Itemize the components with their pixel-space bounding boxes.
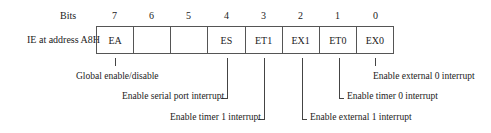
cell-ea: EA	[97, 27, 134, 53]
bit-number-6: 6	[133, 10, 170, 21]
annotation-timer-0: Enable timer 0 interrupt	[347, 91, 438, 101]
leader-line-et0	[339, 58, 340, 99]
bit-number-7: 7	[96, 10, 133, 21]
cell-et1: ET1	[246, 27, 283, 53]
bit-number-0: 0	[357, 10, 394, 21]
leader-line-es	[227, 58, 228, 99]
annotation-serial-port: Enable serial port interrupt	[122, 91, 224, 101]
annotation-timer-1: Enable timer 1 interrupt	[170, 112, 261, 122]
leader-line-ex0	[375, 58, 376, 66]
cell-et0: ET0	[320, 27, 357, 53]
cell-ex1: EX1	[283, 27, 320, 53]
annotation-external-0: Enable external 0 interrupt	[373, 71, 475, 81]
cell-es: ES	[208, 27, 245, 53]
bit-number-5: 5	[170, 10, 207, 21]
cell-bit6	[134, 27, 171, 53]
bit-number-1: 1	[319, 10, 356, 21]
bits-label: Bits	[60, 10, 76, 21]
leader-hook-et0	[339, 98, 344, 99]
ie-register: EA ES ET1 EX1 ET0 EX0	[96, 26, 394, 54]
cell-bit5	[171, 27, 208, 53]
bit-number-2: 2	[282, 10, 319, 21]
leader-line-et1	[264, 58, 265, 120]
leader-line-ea	[115, 58, 116, 66]
annotation-global-enable: Global enable/disable	[76, 71, 159, 81]
leader-line-ex1	[302, 58, 303, 120]
bit-number-3: 3	[245, 10, 282, 21]
cell-ex0: EX0	[357, 27, 393, 53]
leader-hook-ex1	[302, 119, 307, 120]
register-label: IE at address A8H	[27, 34, 100, 45]
bit-number-4: 4	[208, 10, 245, 21]
annotation-external-1: Enable external 1 interrupt	[310, 112, 412, 122]
